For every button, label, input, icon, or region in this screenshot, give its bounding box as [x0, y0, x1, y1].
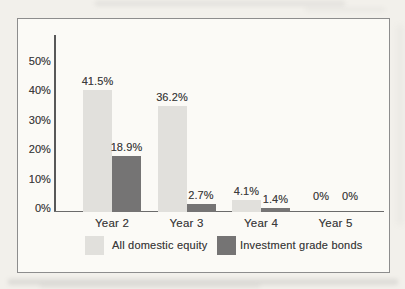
chart-frame: 0%10%20%30%40%50%41.5%18.9%Year 236.2%2.… [17, 18, 390, 273]
scanned-page: 0%10%20%30%40%50%41.5%18.9%Year 236.2%2.… [0, 0, 405, 289]
y-tick-label: 0% [18, 202, 51, 214]
x-axis-label: Year 5 [301, 217, 371, 230]
scan-artifact [40, 284, 260, 288]
bar-series2-year-3 [187, 204, 216, 212]
legend-swatch [217, 236, 236, 255]
y-axis-line [54, 35, 56, 212]
bar-value-label: 36.2% [147, 91, 197, 104]
scan-artifact [8, 279, 398, 285]
bar-series2-year-2 [112, 156, 141, 212]
bar-value-label: 0% [325, 190, 375, 203]
y-tick-label: 50% [18, 55, 51, 67]
y-tick-label: 10% [18, 173, 51, 185]
x-axis-label: Year 2 [77, 217, 147, 230]
scan-artifact [305, 8, 385, 11]
y-tick-label: 40% [18, 84, 51, 96]
scan-artifact [397, 25, 403, 225]
bar-value-label: 18.9% [102, 141, 152, 154]
y-tick-label: 30% [18, 114, 51, 126]
legend-swatch [85, 236, 104, 255]
bar-value-label: 41.5% [73, 75, 123, 88]
bar-series2-year-4 [261, 208, 290, 212]
y-tick-label: 20% [18, 143, 51, 155]
bar-value-label: 2.7% [176, 189, 226, 202]
bar-value-label: 1.4% [251, 193, 301, 206]
x-axis-label: Year 4 [226, 217, 296, 230]
x-axis-label: Year 3 [152, 217, 222, 230]
legend-label: All domestic equity [112, 239, 208, 252]
legend-label: Investment grade bonds [240, 239, 362, 252]
scan-artifact [95, 1, 345, 6]
